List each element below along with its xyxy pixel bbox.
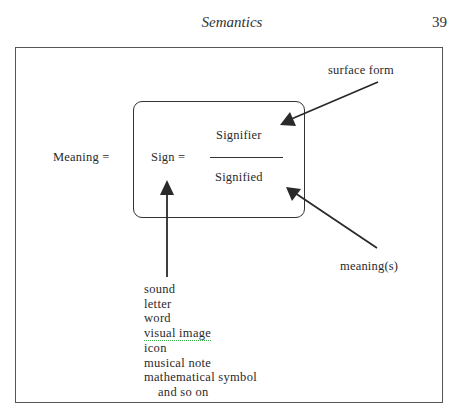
surface-form-label: surface form: [328, 63, 394, 78]
meaning-label: Meaning =: [53, 150, 109, 165]
list-item: mathematical symbol: [144, 370, 257, 385]
list-item: letter: [144, 297, 257, 312]
list-item: visual image: [144, 326, 257, 341]
signified-label: Signified: [215, 170, 263, 185]
meanings-label: meaning(s): [340, 259, 398, 274]
page-number: 39: [432, 14, 447, 31]
list-item-text: visual image: [144, 326, 211, 341]
list-item: musical note: [144, 356, 257, 371]
sign-label: Sign =: [151, 150, 185, 165]
list-item: sound: [144, 282, 257, 297]
list-item: word: [144, 311, 257, 326]
list-item: and so on: [144, 385, 257, 400]
list-item: icon: [144, 341, 257, 356]
signifier-label: Signifier: [216, 128, 262, 143]
running-head: Semantics: [0, 14, 464, 31]
sign-examples-list: sound letter word visual image icon musi…: [144, 282, 257, 400]
fraction-line: [210, 157, 283, 158]
